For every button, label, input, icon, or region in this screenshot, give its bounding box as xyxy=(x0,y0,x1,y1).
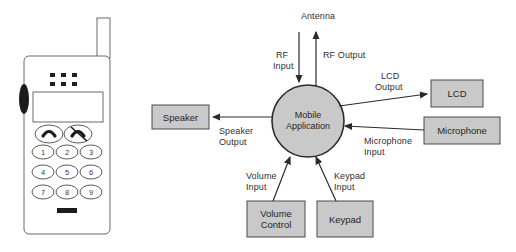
phone-illustration xyxy=(19,18,110,234)
phone-key-1: 1 xyxy=(35,148,51,157)
flow-rf-input-label-line2: Input xyxy=(273,61,294,72)
flow-antenna-label: Antenna xyxy=(288,11,348,22)
entity-volume-control-label-line2: Control xyxy=(261,219,292,230)
flow-microphone-input-label-line1: Microphone xyxy=(364,136,412,147)
flow-lcd-output-label-line2: Output xyxy=(375,82,403,93)
phone-key-5: 5 xyxy=(59,168,75,177)
phone-key-8: 8 xyxy=(59,188,75,197)
phone-key-6: 6 xyxy=(83,168,99,177)
flow-speaker-output-label-line2: Output xyxy=(219,137,247,148)
entity-speaker-label: Speaker xyxy=(152,105,209,129)
process-label-line2: Application xyxy=(286,121,330,132)
flow-keypad-input-arrow xyxy=(316,157,336,201)
flow-rf-input-label-line1: RF xyxy=(276,50,288,61)
phone-microphone-bar xyxy=(57,208,77,213)
phone-screen xyxy=(33,92,103,122)
flow-volume-input-label-line2: Input xyxy=(246,182,267,193)
phone-side-button xyxy=(19,84,29,114)
entity-microphone-label: Microphone xyxy=(424,117,500,144)
phone-key-3: 3 xyxy=(83,148,99,157)
phone-key-2: 2 xyxy=(59,148,75,157)
process-label-line1: Mobile xyxy=(295,110,322,121)
flow-keypad-input-label-line1: Keypad xyxy=(334,171,365,182)
flow-microphone-input-arrow xyxy=(345,126,424,130)
entity-lcd-label: LCD xyxy=(431,80,483,107)
entity-volume-control-label-line1: Volume xyxy=(260,208,292,219)
phone-key-4: 4 xyxy=(35,168,51,177)
flow-lcd-output-label-line1: LCD xyxy=(381,71,399,82)
flow-lcd-output-arrow xyxy=(339,94,427,106)
flow-volume-input-label-line1: Volume xyxy=(246,171,277,182)
flow-keypad-input-label-line2: Input xyxy=(334,182,355,193)
flow-microphone-input-label-line2: Input xyxy=(364,147,385,158)
flow-rf-output-label: RF Output xyxy=(323,50,365,61)
phone-antenna xyxy=(97,18,110,58)
phone-call-key xyxy=(35,125,63,143)
context-diagram: Mobile Application Speaker LCD Microphon… xyxy=(0,0,516,252)
phone-key-9: 9 xyxy=(83,188,99,197)
process-label: Mobile Application xyxy=(272,106,344,136)
flow-speaker-output-label-line1: Speaker xyxy=(219,126,253,137)
entity-volume-control-label: Volume Control xyxy=(247,201,305,237)
phone-key-7: 7 xyxy=(35,188,51,197)
entity-keypad-label: Keypad xyxy=(317,201,373,237)
